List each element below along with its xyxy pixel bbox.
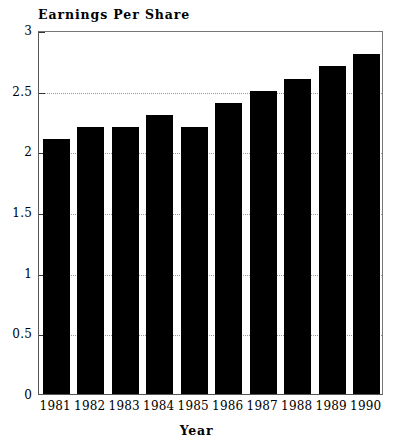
x-axis-tick-label: 1989 (314, 399, 349, 413)
plot-area (38, 31, 383, 395)
chart-title: Earnings Per Share (38, 7, 190, 23)
y-axis-tick-label: 3 (0, 25, 32, 37)
x-axis-labels: 1981198219831984198519861987198819891990 (38, 399, 383, 417)
bar (146, 115, 173, 394)
y-axis-tick-label: 0.5 (0, 328, 32, 340)
y-axis-tick-label: 1.5 (0, 207, 32, 219)
bar (250, 91, 277, 394)
x-axis-tick-label: 1987 (245, 399, 280, 413)
y-axis-tick-label: 1 (0, 268, 32, 280)
bar (112, 127, 139, 394)
earnings-per-share-bar-chart: Earnings Per Share 00.511.522.53 1981198… (0, 0, 393, 447)
y-axis-tick-label: 2 (0, 146, 32, 158)
x-axis-tick-label: 1981 (38, 399, 73, 413)
x-axis-tick-label: 1985 (176, 399, 211, 413)
bar (215, 103, 242, 394)
x-axis-tick-label: 1986 (211, 399, 246, 413)
x-axis-tick-label: 1984 (142, 399, 177, 413)
bar (43, 139, 70, 394)
bar (284, 79, 311, 394)
y-axis-tick-label: 2.5 (0, 86, 32, 98)
y-tick-mark (39, 93, 45, 94)
x-axis-tick-label: 1983 (107, 399, 142, 413)
bar (77, 127, 104, 394)
y-axis-tick-label: 0 (0, 389, 32, 401)
x-axis-tick-label: 1988 (280, 399, 315, 413)
bar (181, 127, 208, 394)
x-axis-title: Year (0, 423, 393, 438)
bar (353, 54, 380, 394)
bar (319, 66, 346, 394)
x-axis-tick-label: 1990 (349, 399, 384, 413)
y-tick-mark (39, 32, 45, 33)
x-axis-tick-label: 1982 (73, 399, 108, 413)
